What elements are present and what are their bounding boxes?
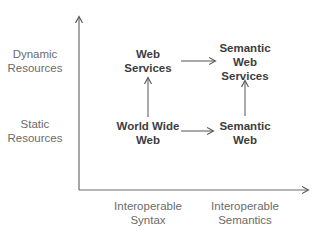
y-label-line: Static <box>2 117 68 131</box>
node-line: Web <box>108 133 188 147</box>
y-label-line: Resources <box>2 131 68 145</box>
node-semantic-web-services: Semantic Web Services <box>210 41 280 83</box>
node-line: Semantic <box>210 41 280 55</box>
node-world-wide-web: World Wide Web <box>108 119 188 147</box>
x-label-line: Interoperable <box>205 199 285 213</box>
node-semantic-web: Semantic Web <box>210 119 280 147</box>
node-web-services: Web Services <box>113 47 183 75</box>
x-label-interoperable-semantics: Interoperable Semantics <box>205 199 285 227</box>
node-line: Semantic <box>210 119 280 133</box>
node-line: World Wide <box>108 119 188 133</box>
x-label-line: Semantics <box>205 213 285 227</box>
y-label-line: Dynamic <box>2 47 68 61</box>
x-label-line: Interoperable <box>108 199 188 213</box>
node-line: Web <box>210 133 280 147</box>
node-line: Web <box>113 47 183 61</box>
node-line: Web <box>210 55 280 69</box>
node-line: Services <box>210 69 280 83</box>
y-label-line: Resources <box>2 61 68 75</box>
y-label-static-resources: Static Resources <box>2 117 68 145</box>
x-label-line: Syntax <box>108 213 188 227</box>
node-line: Services <box>113 61 183 75</box>
y-label-dynamic-resources: Dynamic Resources <box>2 47 68 75</box>
x-label-interoperable-syntax: Interoperable Syntax <box>108 199 188 227</box>
